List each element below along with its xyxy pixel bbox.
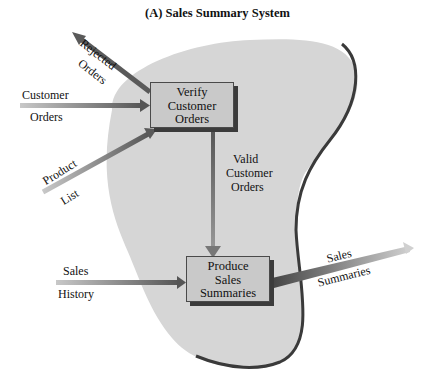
- label-valid-orders: Orders: [231, 180, 264, 195]
- process-label-line: Summaries: [187, 287, 269, 301]
- process-produce-sales-summaries[interactable]: Produce Sales Summaries: [186, 256, 270, 302]
- label-valid: Valid: [233, 152, 258, 167]
- process-label-line: Customer: [151, 100, 233, 114]
- process-label-line: Orders: [151, 113, 233, 127]
- process-verify-customer-orders[interactable]: Verify Customer Orders: [150, 82, 234, 128]
- label-sales: Sales: [63, 264, 88, 279]
- process-label-line: Verify: [151, 86, 233, 100]
- diagram-canvas: [0, 0, 435, 379]
- process-label-line: Produce: [187, 260, 269, 274]
- label-valid-customer: Customer: [226, 166, 273, 181]
- label-sales-history: History: [58, 287, 94, 302]
- label-customer-orders: Orders: [30, 110, 63, 125]
- label-customer: Customer: [22, 88, 69, 103]
- process-label-line: Sales: [187, 274, 269, 288]
